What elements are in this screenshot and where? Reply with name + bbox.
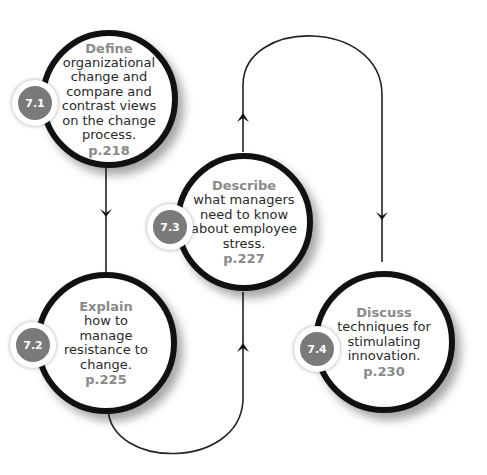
objective-description: what managers need to know about employe… xyxy=(188,193,300,251)
objective-node-7-2: Explain how to manage resistance to chan… xyxy=(35,272,177,414)
objective-verb: Discuss xyxy=(356,305,411,320)
objective-verb: Explain xyxy=(79,299,133,314)
objective-badge-7-4: 7.4 xyxy=(294,326,340,372)
objective-node-7-1: Define organizational change and compare… xyxy=(40,30,178,168)
arrow-down-icon xyxy=(100,209,112,217)
page-reference: p.225 xyxy=(85,372,126,387)
arrow-up-icon xyxy=(237,113,249,122)
objective-verb: Describe xyxy=(212,178,276,193)
objective-description: how to manage resistance to change. xyxy=(61,314,151,372)
objective-description: techniques for stimulating innovation. xyxy=(336,320,432,364)
objective-node-7-3: Describe what managers need to know abou… xyxy=(175,153,313,291)
objective-badge-7-2: 7.2 xyxy=(10,322,56,368)
objective-badge-7-1: 7.1 xyxy=(12,80,58,126)
objective-badge-7-3: 7.3 xyxy=(147,204,193,250)
page-reference: p.230 xyxy=(363,364,404,379)
objective-verb: Define xyxy=(85,41,132,56)
page-reference: p.218 xyxy=(88,143,129,158)
arrow-up-icon xyxy=(237,343,249,352)
objective-description: organizational change and compare and co… xyxy=(55,56,163,143)
page-reference: p.227 xyxy=(223,251,264,266)
arrow-down-icon xyxy=(376,212,388,220)
